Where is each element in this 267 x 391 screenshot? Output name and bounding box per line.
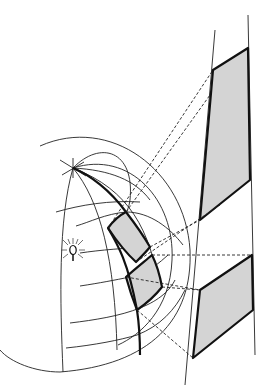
ray-3 xyxy=(150,220,200,247)
projection-plane xyxy=(185,15,255,385)
parallel-6 xyxy=(66,290,185,348)
meridian-1 xyxy=(61,168,73,372)
globe-outline xyxy=(0,137,190,372)
light-bulb-icon xyxy=(61,238,85,261)
plane-patch-lower xyxy=(193,255,253,358)
bold-meridian-2 xyxy=(73,168,126,212)
ray-4 xyxy=(136,205,220,262)
ray-2 xyxy=(126,95,210,212)
globe-patches xyxy=(73,168,162,355)
globe xyxy=(0,137,190,372)
plane-patch-upper xyxy=(200,48,250,220)
projection-diagram xyxy=(0,0,267,391)
ray-1 xyxy=(108,70,213,228)
